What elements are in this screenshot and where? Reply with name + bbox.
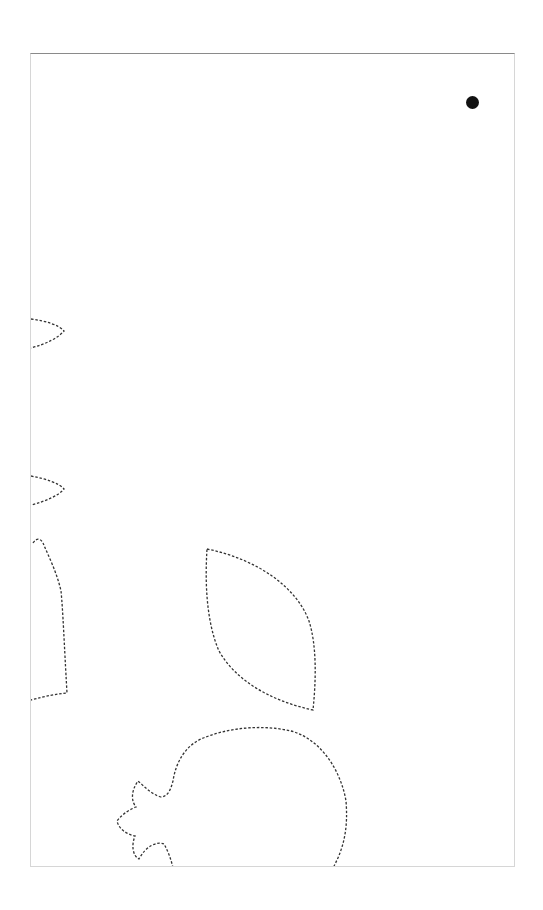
leaf-tip-upper-icon [31, 319, 64, 348]
marker-dot-icon [466, 96, 479, 109]
leaf-outline-icon [206, 549, 315, 710]
pomegranate-outline-icon [117, 728, 347, 867]
leaf-tip-lower-icon [31, 476, 64, 505]
leaf-side-partial-icon [31, 539, 67, 700]
cutout-pattern-canvas [31, 54, 515, 867]
page-frame [30, 53, 515, 867]
